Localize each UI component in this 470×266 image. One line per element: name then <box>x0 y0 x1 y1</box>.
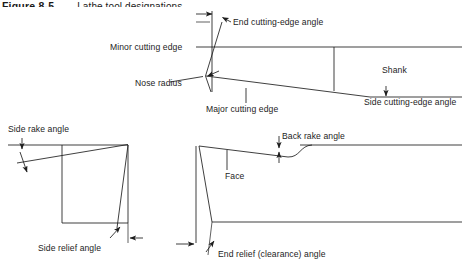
label-end-cutting-edge-angle: End cutting-edge angle <box>233 17 323 27</box>
nose-radius-arrow <box>208 71 220 76</box>
label-shank: Shank <box>382 65 407 75</box>
side-rake-face-line <box>17 145 128 164</box>
side-relief-flank-line <box>117 145 128 228</box>
nose-flank-line <box>206 76 212 92</box>
end-relief-extension-line <box>208 222 212 255</box>
label-side-rake-angle: Side rake angle <box>8 124 69 134</box>
label-face: Face <box>225 171 244 181</box>
end-relief-flank-line <box>199 146 212 222</box>
end-cutting-edge-leader <box>223 18 232 23</box>
label-side-cutting-edge-angle: Side cutting-edge angle <box>364 97 456 107</box>
label-minor-cutting-edge: Minor cutting edge <box>110 42 182 52</box>
label-side-relief-angle: Side relief angle <box>38 243 101 253</box>
major-cutting-edge-line <box>206 76 370 97</box>
figure-linework <box>0 0 470 266</box>
label-nose-radius: Nose radius <box>135 78 182 88</box>
figure-container: Figure 8-5 Lathe tool designations. <box>0 0 470 266</box>
side-relief-angle-leader <box>110 227 120 238</box>
label-major-cutting-edge: Major cutting edge <box>206 104 278 114</box>
label-back-rake-angle: Back rake angle <box>282 131 345 141</box>
end-relief-angle-leader <box>206 241 214 252</box>
label-end-relief-clearance-angle: End relief (clearance) angle <box>218 249 326 259</box>
rake-face-line <box>199 146 288 157</box>
end-cutting-edge-line <box>206 22 223 76</box>
chip-breaker-curve <box>288 145 312 157</box>
